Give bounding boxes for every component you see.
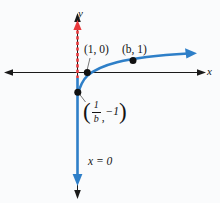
asymptote-blue-arrow-icon [73, 174, 83, 186]
label-minus-one: −1 [106, 106, 120, 118]
fraction-numerator: 1 [93, 100, 100, 111]
marked-point-frac [74, 89, 81, 96]
fraction-denominator: b [93, 114, 100, 125]
y-axis-bottom-arrow-icon [74, 190, 81, 199]
x-axis-left-arrow-icon [4, 69, 13, 76]
y-axis-label: y [78, 8, 83, 19]
label-comma: , [102, 112, 105, 125]
open-paren: ( [83, 103, 91, 122]
close-paren: ) [119, 103, 127, 122]
marked-point-1-0 [84, 69, 91, 76]
asymptote-label: x = 0 [88, 156, 112, 168]
marked-point-b-1 [130, 57, 137, 64]
fraction-one-over-b: 1 b [92, 100, 101, 124]
point-label-frac-minus-one: ( 1 b , −1 ) [83, 100, 127, 124]
point-label-1-0: (1, 0) [84, 44, 109, 56]
x-axis-label: x [207, 66, 212, 77]
curve-arrow-icon [185, 48, 197, 58]
x-axis-right-arrow-icon [197, 69, 206, 76]
point-label-b-1: (b, 1) [122, 44, 147, 56]
